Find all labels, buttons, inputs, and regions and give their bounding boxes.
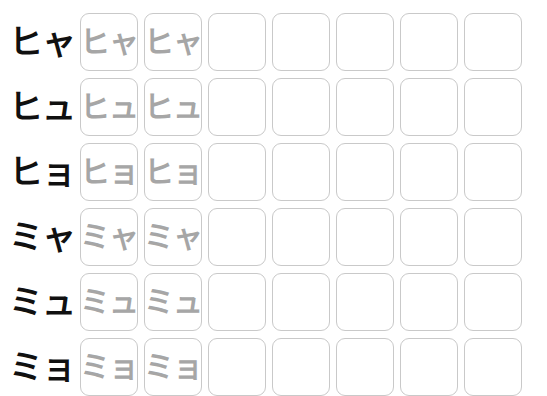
trace-glyph: ミャ [80,222,138,252]
practice-cell-blank[interactable] [336,13,394,71]
practice-cell-blank[interactable] [400,78,458,136]
practice-cell-blank[interactable] [464,338,522,396]
practice-cell-blank[interactable] [400,13,458,71]
practice-cell-traced[interactable]: ミュ [80,273,138,331]
practice-cell-traced[interactable]: ヒュ [144,78,202,136]
reference-glyph: ヒャ [9,25,75,59]
trace-glyph: ミャ [144,222,202,252]
practice-cell-blank[interactable] [336,208,394,266]
practice-cell-traced[interactable]: ヒュ [80,78,138,136]
row-label-hyo: ヒョ [0,142,80,202]
practice-cell-blank[interactable] [464,208,522,266]
clipped-header-text: ・・・・・・ [24,0,96,5]
practice-cell-blank[interactable] [272,208,330,266]
practice-cell-blank[interactable] [400,338,458,396]
practice-cell-blank[interactable] [336,78,394,136]
practice-cells: ヒャヒャ [80,13,522,71]
row-label-myu: ミュ [0,272,80,332]
practice-cell-blank[interactable] [272,273,330,331]
trace-glyph: ヒョ [144,157,202,187]
practice-cell-blank[interactable] [272,143,330,201]
practice-cell-blank[interactable] [208,338,266,396]
practice-cell-blank[interactable] [400,143,458,201]
practice-cell-blank[interactable] [272,13,330,71]
practice-cell-blank[interactable] [400,273,458,331]
trace-glyph: ヒョ [80,157,138,187]
practice-row: ヒャヒャヒャ [0,12,547,72]
practice-cell-traced[interactable]: ミャ [80,208,138,266]
practice-cell-traced[interactable]: ミュ [144,273,202,331]
trace-glyph: ミョ [144,352,202,382]
practice-row: ミャミャミャ [0,207,547,267]
row-label-hya: ヒャ [0,12,80,72]
practice-cell-blank[interactable] [208,78,266,136]
practice-cell-blank[interactable] [464,273,522,331]
trace-glyph: ヒュ [144,92,202,122]
row-label-myo: ミョ [0,337,80,396]
practice-cells: ミャミャ [80,208,522,266]
trace-glyph: ヒャ [80,27,138,57]
reference-glyph: ミュ [9,285,75,319]
practice-cell-blank[interactable] [272,338,330,396]
practice-cell-blank[interactable] [464,78,522,136]
row-label-hyu: ヒュ [0,77,80,137]
practice-grid: ヒャヒャヒャヒュヒュヒュヒョヒョヒョミャミャミャミュミュミュミョミョミョ [0,12,547,396]
practice-cells: ミョミョ [80,338,522,396]
practice-cell-traced[interactable]: ヒョ [144,143,202,201]
practice-cell-traced[interactable]: ヒャ [144,13,202,71]
reference-glyph: ヒュ [9,90,75,124]
practice-cell-traced[interactable]: ミョ [80,338,138,396]
reference-glyph: ミャ [9,220,75,254]
practice-cell-traced[interactable]: ヒャ [80,13,138,71]
practice-cells: ヒュヒュ [80,78,522,136]
practice-cell-blank[interactable] [464,13,522,71]
practice-cell-blank[interactable] [336,143,394,201]
practice-cell-blank[interactable] [208,13,266,71]
practice-cell-blank[interactable] [208,143,266,201]
reference-glyph: ミョ [9,350,75,384]
practice-cells: ヒョヒョ [80,143,522,201]
practice-cell-traced[interactable]: ヒョ [80,143,138,201]
practice-cell-traced[interactable]: ミョ [144,338,202,396]
practice-cell-blank[interactable] [464,143,522,201]
trace-glyph: ミュ [144,287,202,317]
practice-cell-traced[interactable]: ミャ [144,208,202,266]
practice-row: ヒュヒュヒュ [0,77,547,137]
practice-row: ミョミョミョ [0,337,547,396]
trace-glyph: ミュ [80,287,138,317]
practice-cell-blank[interactable] [400,208,458,266]
reference-glyph: ヒョ [9,155,75,189]
practice-cell-blank[interactable] [336,273,394,331]
trace-glyph: ヒュ [80,92,138,122]
practice-cell-blank[interactable] [336,338,394,396]
trace-glyph: ヒャ [144,27,202,57]
trace-glyph: ミョ [80,352,138,382]
practice-row: ヒョヒョヒョ [0,142,547,202]
row-label-mya: ミャ [0,207,80,267]
practice-cell-blank[interactable] [208,273,266,331]
practice-cells: ミュミュ [80,273,522,331]
practice-cell-blank[interactable] [208,208,266,266]
practice-row: ミュミュミュ [0,272,547,332]
practice-cell-blank[interactable] [272,78,330,136]
